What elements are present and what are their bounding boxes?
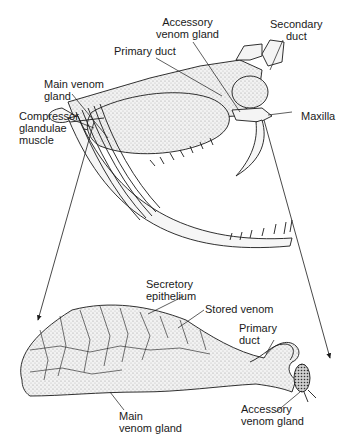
label-main-venom-gland-detail: Main venom gland <box>119 410 182 434</box>
label-accessory-venom-gland-detail: Accessory venom gland <box>241 403 304 427</box>
label-accessory-venom-gland: Accessory venom gland <box>156 16 219 40</box>
label-main-venom-gland: Main venom gland <box>44 78 104 102</box>
label-stored-venom: Stored venom <box>205 303 273 315</box>
snake-skull <box>49 40 292 248</box>
label-secondary-duct: Secondary duct <box>270 18 323 42</box>
label-maxilla: Maxilla <box>301 110 335 122</box>
dissected-gland <box>21 305 316 402</box>
label-secretory-epithelium: Secretory epithelium <box>146 278 196 302</box>
label-primary-duct: Primary duct <box>114 45 176 57</box>
label-compressor-glandulae-muscle: Compressor glandulae muscle <box>19 110 79 146</box>
illustration-art <box>0 0 348 444</box>
venom-apparatus-figure: Accessory venom gland Secondary duct Pri… <box>0 0 348 444</box>
label-primary-duct-detail: Primary duct <box>239 322 277 346</box>
